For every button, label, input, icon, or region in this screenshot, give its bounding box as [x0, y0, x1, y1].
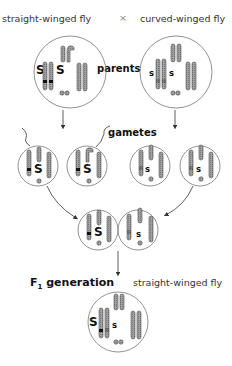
arrow-gamete-right — [166, 186, 193, 215]
gamete-tether-left — [22, 128, 30, 146]
genetics-cross-diagram — [0, 0, 232, 366]
arrow-gamete-left — [47, 186, 76, 218]
parent-cell-curved — [140, 36, 212, 108]
gamete-tether-right — [96, 126, 110, 147]
